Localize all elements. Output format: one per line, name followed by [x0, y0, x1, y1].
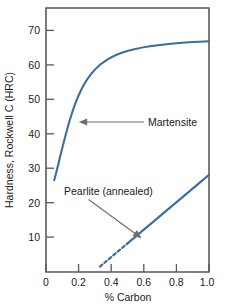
x-axis-title: % Carbon	[105, 291, 152, 303]
annotation-martensite: Martensite	[79, 116, 197, 128]
x-tick-label-0.2: 0.2	[71, 276, 86, 288]
pearlite-leader-line	[89, 200, 137, 235]
plot-frame	[46, 8, 209, 272]
chart-container: 70 60 50 40 30 20 10 0 0.2 0.4 0.6 0.8 1…	[0, 0, 228, 306]
x-tick-label-0.6: 0.6	[136, 276, 151, 288]
y-tick-label-50: 50	[28, 93, 40, 105]
y-axis-title: Hardness, Rockwell C (HRC)	[3, 72, 15, 208]
frame-rect	[46, 8, 209, 272]
y-tick-label-10: 10	[28, 231, 40, 243]
martensite-annotation-label: Martensite	[148, 116, 197, 128]
annotation-pearlite: Pearlite (annealed)	[64, 185, 153, 239]
x-tick-label-1.0: 1.0	[200, 276, 215, 288]
x-tick-label-0.8: 0.8	[169, 276, 184, 288]
y-tick-label-30: 30	[28, 162, 40, 174]
hardness-vs-carbon-chart: 70 60 50 40 30 20 10 0 0.2 0.4 0.6 0.8 1…	[0, 0, 228, 306]
y-axis-ticks	[46, 30, 54, 237]
x-tick-label-0: 0	[43, 276, 49, 288]
pearlite-dashed-path	[100, 243, 128, 266]
y-tick-label-70: 70	[28, 24, 40, 36]
pearlite-annotation-label: Pearlite (annealed)	[64, 185, 153, 197]
x-axis-ticks	[46, 264, 209, 272]
y-tick-label-20: 20	[28, 197, 40, 209]
y-tick-label-60: 60	[28, 59, 40, 71]
x-axis-tick-labels: 0 0.2 0.4 0.6 0.8 1.0	[43, 276, 214, 288]
series-martensite	[54, 41, 209, 180]
x-tick-label-0.4: 0.4	[104, 276, 119, 288]
martensite-curve-path	[54, 41, 209, 180]
y-axis-tick-labels: 70 60 50 40 30 20 10	[28, 24, 40, 243]
martensite-arrow-head-icon	[79, 119, 87, 126]
y-tick-label-40: 40	[28, 128, 40, 140]
